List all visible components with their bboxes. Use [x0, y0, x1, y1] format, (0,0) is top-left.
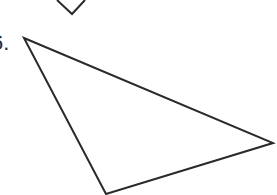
previous-figure-fragment: [57, 0, 85, 14]
figure-canvas: [0, 0, 277, 195]
triangle-shape: [24, 38, 273, 194]
